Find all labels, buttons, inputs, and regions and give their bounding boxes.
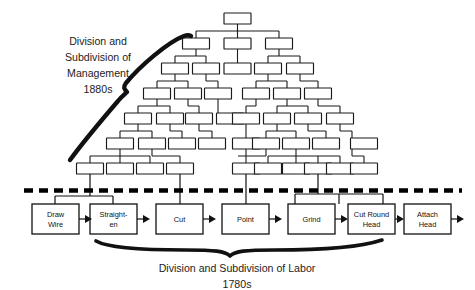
diagram-canvas: Draw Wire Straight- en Cut Point Grind C… [0,0,475,290]
org-node [313,138,340,149]
org-node [233,113,260,124]
label-straighten-line1: Straight- [100,210,128,219]
label-cut-round-head-line2: Head [363,220,381,229]
org-node [139,138,166,149]
arrow-icon [275,215,282,223]
arrow-icon [457,215,464,223]
org-node [243,88,270,99]
org-node [125,113,152,124]
org-node [266,38,293,49]
org-node [351,163,378,174]
org-node [327,163,354,174]
org-node [224,38,251,49]
management-caption: Division and Subdivision of Management 1… [65,35,131,95]
org-node [199,138,226,149]
labor-caption: Division and Subdivision of Labor 1780s [159,262,316,290]
org-node [175,88,202,99]
org-node [205,88,232,99]
org-node [144,88,171,99]
label-straighten-line2: en [109,220,117,229]
management-labor-diagram: Draw Wire Straight- en Cut Point Grind C… [0,0,475,290]
label-point: Point [237,215,254,224]
management-caption-year: 1880s [84,83,113,95]
org-node [253,138,280,149]
org-node [274,88,301,99]
org-node [283,138,310,149]
label-attach-head-line1: Attach [417,210,438,219]
arrow-icon [397,215,404,223]
org-node [157,113,184,124]
org-node [169,138,196,149]
org-node [77,163,104,174]
org-node [255,163,282,174]
org-node [193,63,220,74]
org-node [327,113,354,124]
org-node [186,113,213,124]
org-node [167,163,194,174]
label-grind: Grind [302,215,320,224]
org-node [351,138,378,149]
label-cut: Cut [174,215,186,224]
label-draw-wire-line2: Wire [48,220,63,229]
management-caption-line2: Subdivision of [65,51,131,63]
labor-caption-year: 1780s [223,278,252,290]
org-node [295,113,322,124]
label-draw-wire-line1: Draw [47,210,65,219]
org-node [107,138,134,149]
org-node [255,63,282,74]
org-node [137,163,164,174]
label-cut-round-head-line1: Cut Round [354,210,389,219]
org-node [183,38,210,49]
org-node [162,63,189,74]
labor-brace [96,240,382,256]
labor-caption-line1: Division and Subdivision of Labor [159,262,316,274]
org-node [224,13,251,24]
org-node [107,163,134,174]
arrow-icon [341,215,348,223]
org-node [287,63,314,74]
management-caption-line1: Division and [69,35,127,47]
arrow-icon [143,215,150,223]
label-attach-head-line2: Head [419,220,437,229]
org-node [224,63,251,74]
management-caption-line3: Management [67,67,129,79]
arrow-icon [209,215,216,223]
org-node [264,113,291,124]
org-node [305,88,332,99]
